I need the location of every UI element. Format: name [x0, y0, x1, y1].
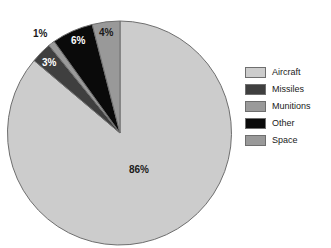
slice-label-missiles: 3%: [42, 58, 56, 68]
legend-swatch-icon-other: [245, 118, 266, 129]
pie-chart: 86% 3% 1% 6% 4% Aircraft Missiles Muniti…: [0, 0, 331, 248]
pie-plot-area: 86% 3% 1% 6% 4%: [0, 0, 245, 248]
legend-label-munitions: Munitions: [272, 101, 311, 112]
slice-label-aircraft: 86%: [129, 165, 149, 175]
legend-swatch-icon-munitions: [245, 101, 266, 112]
legend-item-aircraft[interactable]: Aircraft: [245, 64, 331, 81]
legend-label-space: Space: [272, 135, 298, 146]
legend-swatch-icon-aircraft: [245, 67, 266, 78]
slice-label-other: 6%: [71, 36, 85, 46]
legend-label-other: Other: [272, 118, 295, 129]
legend-label-aircraft: Aircraft: [272, 67, 301, 78]
legend-item-other[interactable]: Other: [245, 115, 331, 132]
chart-legend: Aircraft Missiles Munitions Other Space: [245, 64, 331, 149]
legend-swatch-icon-space: [245, 135, 266, 146]
legend-item-space[interactable]: Space: [245, 132, 331, 149]
legend-item-missiles[interactable]: Missiles: [245, 81, 331, 98]
slice-label-space: 4%: [99, 28, 113, 38]
legend-item-munitions[interactable]: Munitions: [245, 98, 331, 115]
legend-swatch-icon-missiles: [245, 84, 266, 95]
legend-label-missiles: Missiles: [272, 84, 304, 95]
slice-label-munitions: 1%: [33, 29, 47, 39]
